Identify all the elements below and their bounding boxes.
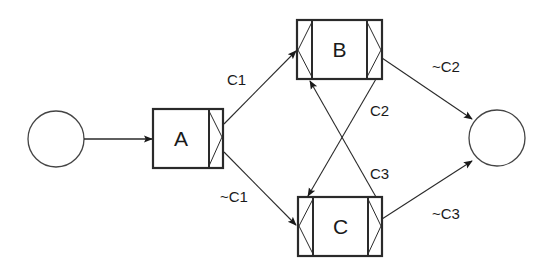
edge-label-not-c1: ~C1 [220,189,248,204]
transition-a-label: A [153,128,209,149]
edge-label-c3: C3 [370,166,389,181]
edge-label-not-c3: ~C3 [432,206,460,221]
edge-c-to-b [310,81,376,197]
edge-label-c2: C2 [370,103,389,118]
edge-label-not-c2: ~C2 [432,59,460,74]
end-place [469,110,525,166]
workflow-diagram [0,0,555,279]
transition-b-label: B [312,39,367,60]
transition-c-label: C [313,216,368,237]
start-place [28,111,84,167]
edge-label-c1: C1 [227,72,246,87]
